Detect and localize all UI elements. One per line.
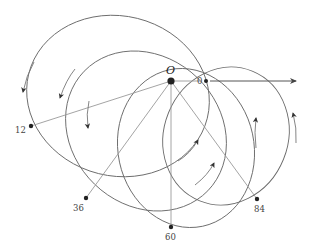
label-0: 0 (197, 76, 202, 86)
ray-36 (86, 81, 171, 198)
arrow-icon (255, 118, 256, 148)
point-84 (255, 197, 259, 201)
orbit-diagram: O 0 12 36 60 84 (0, 0, 312, 252)
point-0 (204, 79, 208, 83)
point-36 (84, 196, 88, 200)
arrow-icon (195, 163, 214, 185)
arrow-icon (87, 101, 89, 128)
label-o: O (166, 64, 175, 77)
label-84: 84 (254, 204, 265, 214)
orbit-60 (103, 56, 269, 241)
arrow-icon (293, 113, 296, 143)
center-point-o (167, 77, 174, 84)
orbit-36 (33, 18, 260, 244)
label-36: 36 (73, 203, 84, 213)
point-60 (169, 225, 173, 229)
arrow-icon (23, 62, 34, 92)
ray-12 (31, 81, 171, 126)
direction-arrows (23, 62, 296, 185)
label-60: 60 (165, 232, 176, 242)
point-12 (29, 124, 33, 128)
label-12: 12 (15, 125, 26, 135)
points (29, 77, 259, 229)
arrow-icon (60, 69, 75, 98)
